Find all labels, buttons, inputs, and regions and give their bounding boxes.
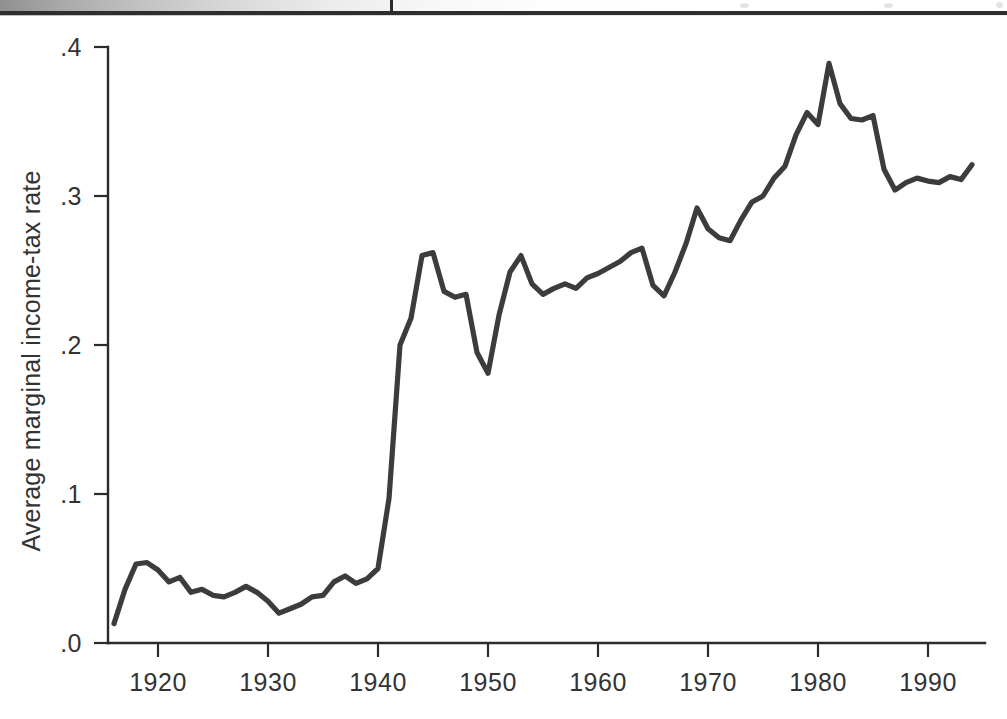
axes-group: [108, 47, 985, 643]
x-axis-tick-labels: 19201930194019501960197019801990: [129, 668, 957, 696]
x-tick-label: 1980: [789, 668, 847, 696]
y-tick-label: .3: [60, 182, 82, 210]
data-series-line: [114, 63, 972, 623]
page-header-tick-mark: [390, 0, 393, 12]
line-chart: .0.1.2.3.4 19201930194019501960197019801…: [0, 16, 1007, 719]
x-tick-label: 1960: [569, 668, 627, 696]
x-axis-ticks: [158, 643, 928, 657]
x-tick-label: 1990: [899, 668, 957, 696]
y-axis-tick-labels: .0.1.2.3.4: [60, 33, 82, 657]
y-axis-title: Average marginal income-tax rate: [17, 170, 45, 551]
scan-edge-gradient: [0, 0, 1007, 11]
x-tick-label: 1930: [239, 668, 297, 696]
scan-speck: [996, 2, 1003, 8]
scan-speck: [740, 3, 749, 8]
y-tick-label: .2: [60, 331, 82, 359]
y-tick-label: .4: [60, 33, 82, 61]
scan-speck: [884, 3, 893, 8]
y-tick-label: .0: [60, 629, 82, 657]
x-tick-label: 1920: [129, 668, 187, 696]
x-tick-label: 1940: [349, 668, 407, 696]
chart-svg: .0.1.2.3.4 19201930194019501960197019801…: [0, 16, 1007, 719]
chart-page: .0.1.2.3.4 19201930194019501960197019801…: [0, 0, 1007, 719]
y-axis-ticks: [94, 47, 108, 643]
y-tick-label: .1: [60, 480, 82, 508]
x-tick-label: 1970: [679, 668, 737, 696]
x-tick-label: 1950: [459, 668, 517, 696]
